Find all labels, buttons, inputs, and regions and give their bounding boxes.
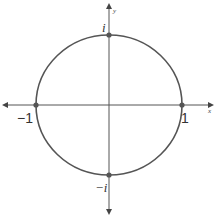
unit-circle-diagram: y x 1 −1 i −i — [0, 0, 216, 218]
y-axis-label: y — [112, 7, 117, 15]
label-minus-i: −i — [95, 180, 108, 195]
point-one — [179, 102, 184, 107]
label-one: 1 — [181, 110, 189, 126]
point-i — [106, 32, 111, 37]
label-minus-one: −1 — [17, 110, 33, 126]
point-minus-i — [106, 172, 111, 177]
point-minus-one — [33, 102, 38, 107]
x-axis-label: x — [207, 107, 212, 115]
label-i: i — [102, 20, 106, 35]
